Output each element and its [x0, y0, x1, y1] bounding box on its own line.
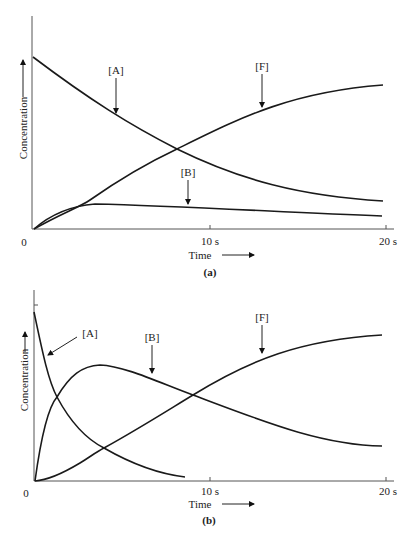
- tick-label-10s-a: 10 s: [201, 235, 219, 247]
- panel-label-b: (b): [202, 514, 216, 527]
- annotation-A-b: [A]: [82, 327, 97, 339]
- curve-A-a: [33, 57, 383, 201]
- tick-label-10s-b: 10 s: [201, 485, 219, 497]
- curve-B-b: [35, 365, 382, 481]
- annotation-B-a: [B]: [181, 166, 196, 178]
- origin-label-b: 0: [23, 487, 29, 499]
- y-axis-title-a: Concentration: [17, 96, 29, 159]
- figure: [A] [F] [B] 0 10 s 20 s Time (a) Concent…: [0, 0, 414, 541]
- annotation-A-a: [A]: [108, 64, 123, 76]
- tick-label-20s-b: 20 s: [379, 485, 397, 497]
- curve-F-b: [35, 335, 382, 481]
- panel-label-a: (a): [204, 266, 217, 279]
- y-axis-title-b: Concentration: [18, 348, 30, 411]
- curve-B-a: [34, 204, 382, 229]
- panel-a: [A] [F] [B] 0 10 s 20 s Time (a) Concent…: [17, 16, 397, 279]
- x-axis-title-b: Time: [189, 498, 212, 510]
- panel-b: [A] [B] [F] 0 10 s 20 s Time (b) Concent…: [18, 290, 397, 527]
- curve-F-a: [34, 85, 383, 229]
- annotation-B-b: [B]: [145, 331, 160, 343]
- x-axis-title-a: Time: [189, 249, 212, 261]
- arrow-A-b: [48, 337, 77, 355]
- annotation-F-b: [F]: [255, 311, 268, 323]
- origin-label-a: 0: [21, 236, 27, 248]
- tick-label-20s-a: 20 s: [379, 235, 397, 247]
- curve-A-b: [34, 312, 185, 477]
- annotation-F-a: [F]: [255, 60, 268, 72]
